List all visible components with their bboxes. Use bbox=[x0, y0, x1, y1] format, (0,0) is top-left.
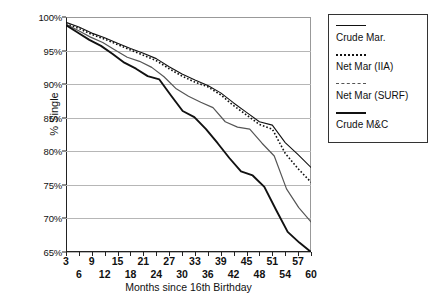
x-axis-tick-label: 54 bbox=[279, 268, 291, 280]
x-axis-tick-label: 15 bbox=[112, 255, 124, 267]
legend-label: Net Mar (SURF) bbox=[336, 90, 408, 101]
x-axis-tick-label: 45 bbox=[241, 255, 253, 267]
x-axis-tick-label: 48 bbox=[254, 268, 266, 280]
legend-entry[interactable]: Crude M&C bbox=[336, 108, 422, 137]
x-axis-tick-label: 24 bbox=[150, 268, 162, 280]
y-axis-tick-label: 100% bbox=[39, 12, 63, 23]
x-axis-tick-label: 36 bbox=[202, 268, 214, 280]
x-axis-tick-label: 42 bbox=[228, 268, 240, 280]
x-axis-tick-label: 39 bbox=[215, 255, 227, 267]
x-axis-tick-label: 57 bbox=[292, 255, 304, 267]
legend-swatch-icon bbox=[336, 112, 366, 118]
legend-label: Crude Mar. bbox=[336, 32, 385, 43]
x-axis-tick-label: 12 bbox=[99, 268, 111, 280]
series-line bbox=[66, 22, 311, 167]
legend-entry[interactable]: Crude Mar. bbox=[336, 21, 422, 50]
plot-area bbox=[66, 17, 311, 252]
legend-entry[interactable]: Net Mar (IIA) bbox=[336, 50, 422, 79]
x-axis-tick-label: 51 bbox=[266, 255, 278, 267]
legend-entry[interactable]: Net Mar (SURF) bbox=[336, 79, 422, 108]
x-axis-tick-label: 60 bbox=[305, 268, 317, 280]
x-axis-tick-label: 3 bbox=[63, 255, 69, 267]
series-lines bbox=[66, 17, 311, 252]
y-axis-tick-label: 85% bbox=[44, 112, 62, 123]
legend-label: Crude M&C bbox=[336, 119, 388, 130]
figure: % Single 100%95%90%85%80%75%70%65% 36912… bbox=[0, 0, 433, 303]
y-axis-tick-label: 95% bbox=[44, 45, 62, 56]
y-axis-tick-label: 70% bbox=[44, 213, 62, 224]
x-axis-tick-label: 6 bbox=[76, 268, 82, 280]
x-axis-tick-label: 21 bbox=[138, 255, 150, 267]
legend: Crude Mar.Net Mar (IIA)Net Mar (SURF)Cru… bbox=[328, 14, 428, 143]
y-axis-tick-label: 75% bbox=[44, 179, 62, 190]
legend-label: Net Mar (IIA) bbox=[336, 61, 393, 72]
x-axis-tick-label: 18 bbox=[125, 268, 137, 280]
y-axis-tick-label: 80% bbox=[44, 146, 62, 157]
y-axis-tick-labels: 100%95%90%85%80%75%70%65% bbox=[0, 17, 62, 252]
legend-swatch-icon bbox=[336, 83, 366, 88]
x-axis-tick-label: 9 bbox=[89, 255, 95, 267]
legend-swatch-icon bbox=[336, 25, 366, 30]
legend-swatch-icon bbox=[336, 54, 366, 60]
x-axis-tick-label: 30 bbox=[176, 268, 188, 280]
x-axis-tick-label: 27 bbox=[163, 255, 175, 267]
x-axis-tick-label: 33 bbox=[189, 255, 201, 267]
y-axis-tick-label: 90% bbox=[44, 79, 62, 90]
series-line bbox=[66, 24, 311, 221]
series-line bbox=[66, 25, 311, 252]
figure-caption bbox=[14, 291, 214, 300]
